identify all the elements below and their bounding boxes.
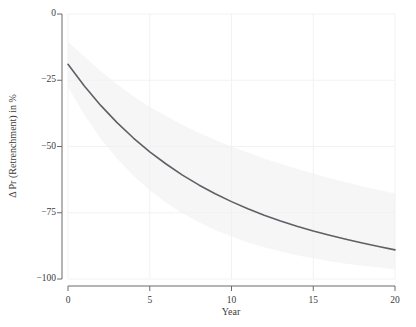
x-axis-title: Year [222,306,240,317]
x-tick-label: 10 [227,296,237,306]
y-axis-title: Δ Pr (Retrenchment) in % [7,94,18,198]
x-tick-label: 20 [390,296,400,306]
plot-canvas [0,0,416,327]
chart-figure: 0−25−50−75−100 05101520 Δ Pr (Retrenchme… [0,0,416,327]
x-tick-label: 15 [309,296,319,306]
y-tick-label: −25 [20,76,56,86]
y-tick-label: 0 [20,9,56,19]
y-tick-label: −100 [20,274,56,284]
x-tick-label: 0 [66,296,71,306]
y-tick-label: −75 [20,208,56,218]
x-tick-label: 5 [147,296,152,306]
y-tick-label: −50 [20,142,56,152]
